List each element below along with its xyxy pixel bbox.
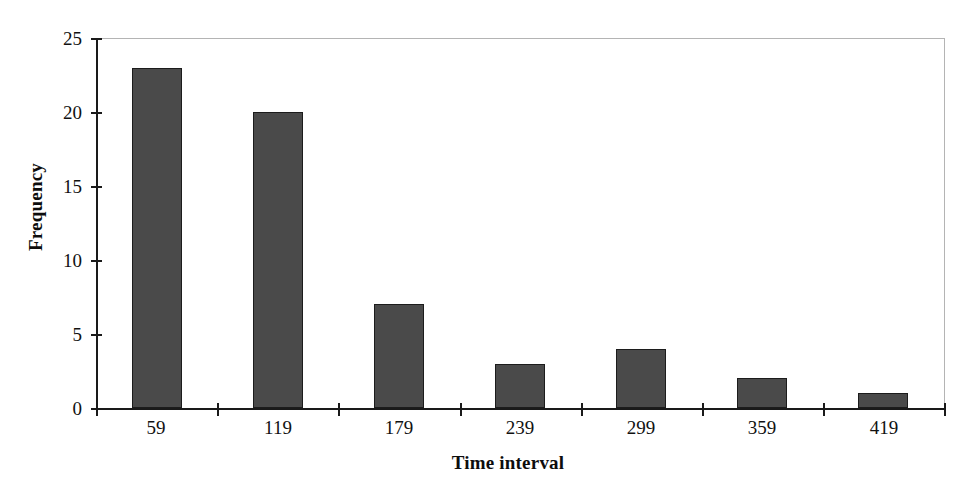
y-axis-tick [91,260,102,262]
x-axis-title: Time interval [396,452,620,474]
y-axis-title: Frequency [25,127,47,287]
x-axis-tick-label: 239 [460,418,580,439]
y-axis-tick-label: 5 [38,325,82,344]
x-axis-line [96,408,945,410]
x-axis-tick [460,403,462,416]
x-axis-tick-label: 119 [218,418,338,439]
x-axis-tick [581,403,583,416]
x-axis-tick-label: 419 [824,418,944,439]
x-axis-tick [702,403,704,416]
bar-chart: 25 20 15 10 5 0 59 119 179 239 299 359 4… [0,0,980,497]
bar [737,378,787,408]
x-axis-tick [823,403,825,416]
x-axis-tick [338,403,340,416]
y-axis-tick-label: 20 [38,103,82,122]
x-axis-tick [217,403,219,416]
y-axis-tick [91,112,102,114]
y-axis-tick [91,38,102,40]
plot-frame [96,38,945,409]
y-axis-tick-label: 25 [38,29,82,48]
x-axis-tick [96,403,98,416]
x-axis-tick-label: 359 [702,418,822,439]
y-axis-tick [91,186,102,188]
bar [253,112,303,408]
bar [374,304,424,408]
bar [858,393,908,408]
bar [495,364,545,408]
x-axis-tick [944,403,946,416]
y-axis-tick [91,334,102,336]
y-axis-line [96,38,98,410]
x-axis-tick-label: 179 [339,418,459,439]
bar [132,68,182,408]
y-axis-tick-label: 0 [38,399,82,418]
x-axis-tick-label: 59 [96,418,216,439]
x-axis-tick-label: 299 [581,418,701,439]
bar [616,349,666,408]
